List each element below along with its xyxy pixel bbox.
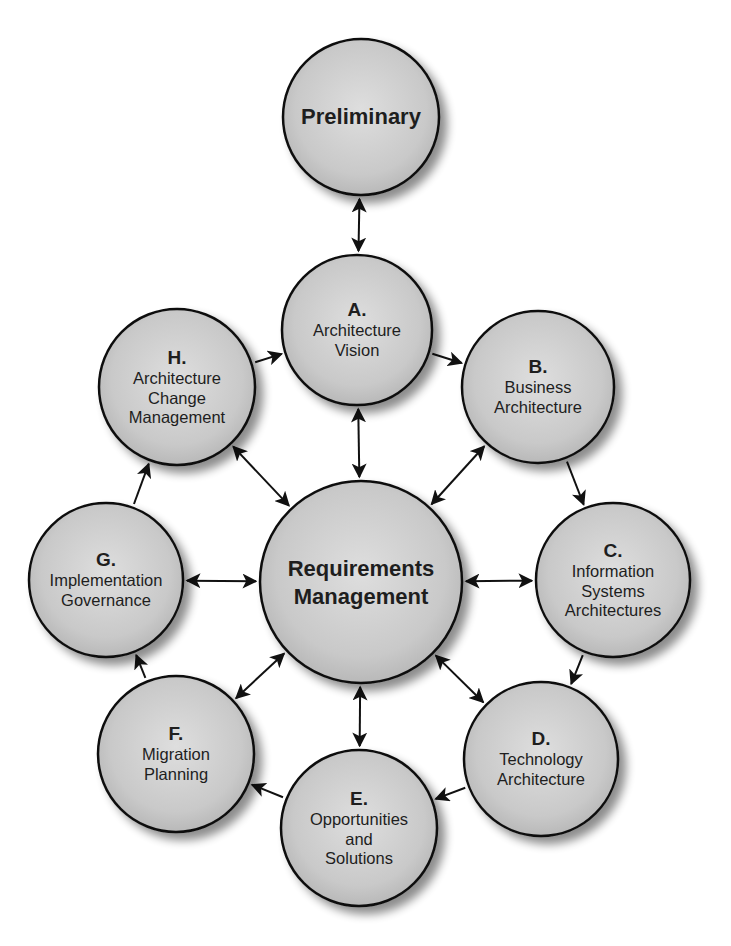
node-circle-c bbox=[536, 503, 690, 657]
arrow-e-f bbox=[252, 785, 283, 798]
bidirectional-arrow-preliminary-a bbox=[358, 199, 359, 251]
node-circle-f bbox=[98, 676, 254, 832]
arrow-d-e bbox=[436, 788, 466, 799]
arrow-c-d bbox=[571, 655, 583, 684]
arrow-h-a bbox=[255, 354, 282, 362]
arrow-a-b bbox=[432, 354, 461, 363]
node-circle-d bbox=[464, 682, 618, 836]
node-circle-b bbox=[462, 311, 614, 463]
arrow-b-c bbox=[567, 462, 584, 505]
node-circle-g bbox=[29, 503, 183, 657]
diagram-canvas bbox=[0, 0, 731, 946]
node-circle-h bbox=[99, 309, 255, 465]
bidirectional-arrow-center-a bbox=[358, 409, 359, 477]
arrow-f-g bbox=[136, 655, 145, 678]
node-circle-e bbox=[281, 750, 437, 906]
node-circle-center bbox=[260, 481, 462, 683]
adm-cycle-diagram: Preliminary A. Architecture Vision B. Bu… bbox=[0, 0, 731, 946]
node-circle-preliminary bbox=[283, 39, 439, 195]
bidirectional-arrow-center-f bbox=[236, 653, 284, 698]
bidirectional-arrow-center-h bbox=[233, 447, 289, 506]
bidirectional-arrow-center-c bbox=[466, 581, 532, 582]
arrow-g-h bbox=[134, 464, 149, 504]
bidirectional-arrow-center-g bbox=[187, 581, 256, 582]
bidirectional-arrow-center-b bbox=[432, 446, 485, 504]
bidirectional-arrow-center-d bbox=[436, 656, 483, 703]
node-circle-a bbox=[282, 255, 432, 405]
